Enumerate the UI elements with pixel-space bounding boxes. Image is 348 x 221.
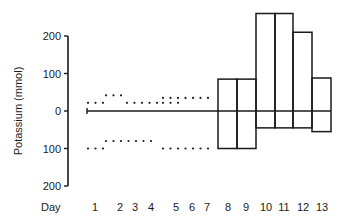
data-dot <box>162 147 164 149</box>
data-dot <box>102 102 104 104</box>
data-dot <box>169 97 171 99</box>
box-day-8 <box>218 79 237 148</box>
x-tick-label: 1 <box>92 201 98 213</box>
box-day-13 <box>312 78 331 132</box>
data-dot <box>142 140 144 142</box>
data-dot <box>162 97 164 99</box>
data-dot <box>184 147 186 149</box>
data-dot <box>135 140 137 142</box>
box-day-9 <box>237 79 256 148</box>
y-tick-label: 200 <box>43 180 61 192</box>
x-tick-label: 11 <box>278 201 289 213</box>
data-dot <box>199 97 201 99</box>
data-dot <box>105 140 107 142</box>
data-dot <box>120 140 122 142</box>
data-dot <box>207 97 209 99</box>
data-dot <box>87 102 89 104</box>
data-dot <box>112 140 114 142</box>
data-dot <box>102 147 104 149</box>
data-dot <box>169 147 171 149</box>
data-dot <box>120 94 122 96</box>
x-tick-label: 9 <box>243 201 249 213</box>
x-tick-label: 7 <box>204 201 210 213</box>
data-dot <box>192 147 194 149</box>
x-axis-title: Day <box>41 201 61 213</box>
data-dot <box>156 102 158 104</box>
data-dot <box>192 97 194 99</box>
potassium-chart: 2001000100200Potassium (mmol)Day12345678… <box>0 0 348 221</box>
data-dot <box>105 94 107 96</box>
data-dot <box>148 102 150 104</box>
x-tick-label: 12 <box>297 201 309 213</box>
data-dot <box>127 140 129 142</box>
y-tick-label: 0 <box>55 105 61 117</box>
x-tick-label: 5 <box>173 201 179 213</box>
y-tick-label: 100 <box>43 68 61 80</box>
x-tick-label: 6 <box>189 201 195 213</box>
x-tick-label: 8 <box>225 201 231 213</box>
x-tick-label: 13 <box>316 201 328 213</box>
x-tick-label: 2 <box>117 201 123 213</box>
data-dot <box>112 94 114 96</box>
data-dot <box>141 102 143 104</box>
data-dot <box>177 147 179 149</box>
x-tick-label: 4 <box>148 201 154 213</box>
x-tick-label: 3 <box>132 201 138 213</box>
data-dot <box>94 102 96 104</box>
data-dot <box>169 102 171 104</box>
data-dot <box>177 102 179 104</box>
data-dot <box>177 97 179 99</box>
y-tick-label: 100 <box>43 143 61 155</box>
box-day-12 <box>293 32 312 128</box>
data-dot <box>199 147 201 149</box>
data-dot <box>126 102 128 104</box>
data-dot <box>184 97 186 99</box>
y-tick-label: 200 <box>43 30 61 42</box>
data-dot <box>207 147 209 149</box>
data-dot <box>87 147 89 149</box>
data-dot <box>94 147 96 149</box>
x-tick-label: 10 <box>260 201 272 213</box>
data-dot <box>150 140 152 142</box>
y-axis-title: Potassium (mmol) <box>12 67 24 156</box>
data-dot <box>133 102 135 104</box>
data-dot <box>162 102 164 104</box>
